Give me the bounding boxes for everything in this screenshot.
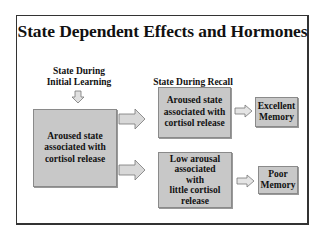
learning-label-line1: State During	[33, 66, 125, 77]
learning-label: State During Initial Learning	[33, 66, 125, 88]
recall-bottom-line3: with	[170, 175, 221, 186]
recall-top-line1: Aroused state	[164, 95, 226, 107]
recall-low-arousal-box: Low arousal associated with little corti…	[158, 152, 232, 208]
right-arrow-icon	[236, 174, 255, 188]
right-arrow-icon	[234, 104, 253, 118]
recall-bottom-line5: release	[170, 196, 221, 207]
poor-memory-box: Poor Memory	[258, 166, 298, 194]
learning-state-box: Aroused state associated with cortisol r…	[33, 109, 117, 187]
excellent-memory-box: Excellent Memory	[255, 97, 298, 127]
recall-bottom-line2: associated	[170, 164, 221, 175]
learning-box-line1: Aroused state	[44, 131, 106, 143]
slide-title: State Dependent Effects and Hormones	[0, 21, 325, 42]
recall-bottom-line1: Low arousal	[170, 154, 221, 165]
recall-top-line3: cortisol release	[164, 118, 226, 130]
poor-line2: Memory	[261, 180, 296, 192]
right-arrow-icon	[118, 159, 146, 181]
learning-label-line2: Initial Learning	[33, 77, 125, 88]
recall-top-line2: associated with	[164, 107, 226, 119]
learning-box-line2: associated with	[44, 142, 106, 154]
right-arrow-icon	[118, 108, 146, 130]
recall-bottom-line4: little cortisol	[170, 185, 221, 196]
poor-line1: Poor	[261, 169, 296, 181]
learning-box-line3: cortisol release	[44, 154, 106, 166]
excellent-line1: Excellent	[258, 101, 295, 113]
recall-aroused-box: Aroused state associated with cortisol r…	[158, 87, 231, 138]
down-arrow-icon	[71, 90, 85, 104]
excellent-line2: Memory	[258, 112, 295, 124]
